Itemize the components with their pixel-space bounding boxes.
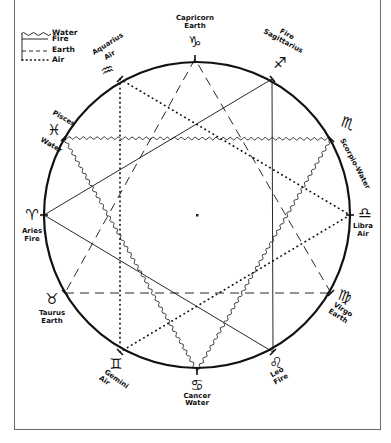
legend: Water Fire Earth Air: [21, 28, 78, 64]
libra-name: Libra: [353, 222, 373, 230]
sign-sagittarius: Fire Sagittarius ♐: [262, 20, 308, 72]
legend-fire-label: Fire: [52, 34, 68, 43]
capricorn-name: Capricorn: [176, 14, 214, 22]
sign-pisces: Pisces ♓ Water: [39, 109, 76, 155]
sign-cancer: ♋ Cancer Water: [183, 376, 211, 407]
pisces-glyph-icon: ♓: [47, 121, 60, 139]
sign-libra: ♎ Libra Air: [353, 204, 373, 238]
libra-glyph-icon: ♎: [358, 204, 371, 222]
sign-taurus: ♉ Taurus Earth: [39, 290, 65, 325]
sign-gemini: ♊ Gemini Air: [97, 355, 130, 397]
legend-earth-label: Earth: [52, 45, 75, 54]
sign-virgo: ♍ Virgo Earth: [327, 286, 354, 326]
aries-element: Fire: [24, 235, 40, 243]
zodiac-diagram: Water Fire Earth Air: [0, 0, 391, 443]
libra-element: Air: [357, 230, 369, 238]
cancer-element: Water: [185, 399, 209, 407]
legend-water-line: [21, 33, 51, 36]
taurus-name: Taurus: [39, 309, 65, 317]
center-dot: [196, 214, 199, 217]
sign-aries: ♈ Aries Fire: [22, 206, 42, 243]
scorpio-label: Scorpio-Water: [338, 137, 372, 191]
sign-leo: ♌ Leo Fire: [268, 354, 290, 387]
capricorn-element: Earth: [184, 22, 205, 30]
scorpio-glyph-icon: ♏: [338, 113, 357, 135]
aries-glyph-icon: ♈: [25, 206, 38, 224]
sign-capricorn: Capricorn Earth ♑: [176, 14, 214, 51]
capricorn-glyph-icon: ♑: [188, 33, 201, 51]
taurus-element: Earth: [41, 317, 62, 325]
taurus-glyph-icon: ♉: [45, 290, 58, 308]
sign-aquarius: Aquarius Air ♒: [91, 31, 125, 81]
sagittarius-glyph-icon: ♐: [273, 54, 286, 72]
aquarius-glyph-icon: ♒: [98, 60, 117, 82]
legend-air-label: Air: [52, 55, 64, 64]
sign-scorpio: ♏ Scorpio-Water: [338, 113, 372, 191]
aries-name: Aries: [22, 227, 42, 235]
